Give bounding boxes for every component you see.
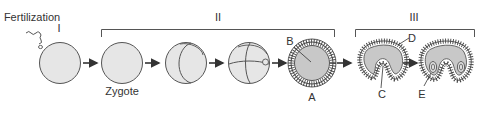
blastula — [288, 39, 336, 87]
fertilized-egg — [40, 43, 81, 84]
early-gastrula — [360, 38, 409, 88]
sperm-icon — [26, 32, 43, 49]
multi-cell-cleavage — [229, 43, 270, 84]
fertilization-label: Fertilization — [4, 11, 60, 23]
label-c: C — [378, 88, 386, 100]
stage-three-label: III — [409, 11, 418, 23]
label-c-leader — [381, 66, 383, 88]
stage-two-label: II — [215, 11, 221, 23]
label-e: E — [418, 88, 425, 100]
stage-one-label: I — [57, 22, 60, 34]
label-d: D — [408, 32, 416, 44]
two-cell-cleavage — [166, 43, 207, 84]
stage-two-bracket — [102, 30, 335, 38]
zygote-label: Zygote — [105, 85, 139, 97]
embryo-development-diagram: Fertilization I II III Zygote — [0, 0, 501, 113]
label-a: A — [308, 91, 316, 103]
label-b: B — [286, 35, 293, 47]
zygote — [102, 43, 143, 84]
late-gastrula — [421, 41, 471, 86]
